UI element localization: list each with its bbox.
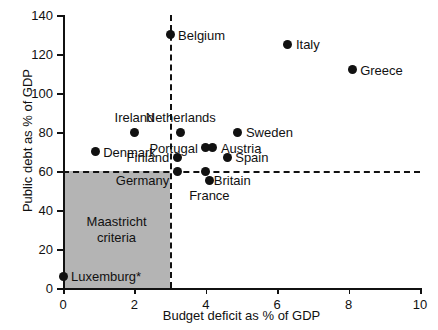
plot-area: 020406080100120140 0246810 Luxemburg*Den… — [63, 15, 420, 288]
data-point — [283, 40, 292, 49]
maastricht-criteria-label: Maastrichtcriteria — [87, 213, 147, 246]
data-point — [166, 30, 175, 39]
x-axis-title: Budget deficit as % of GDP — [63, 308, 420, 323]
data-point — [223, 153, 232, 162]
data-point-label: Britain — [214, 173, 251, 188]
data-point — [205, 176, 214, 185]
data-point-label: Belgium — [178, 27, 225, 42]
y-axis-line — [63, 15, 65, 288]
data-point-label: Italy — [296, 37, 320, 52]
y-tick-label: 0 — [11, 281, 53, 296]
data-point-label: France — [189, 188, 229, 203]
data-point — [208, 143, 217, 152]
data-point — [130, 128, 139, 137]
data-point — [348, 65, 357, 74]
scatter-chart: 020406080100120140 0246810 Luxemburg*Den… — [0, 0, 438, 330]
data-point-label: Netherlands — [146, 110, 216, 125]
y-tick-label: 140 — [11, 8, 53, 23]
data-point-label: Spain — [235, 150, 268, 165]
maastricht-label-line: Maastricht — [87, 213, 147, 229]
data-point-label: Greece — [360, 62, 403, 77]
maastricht-label-line: criteria — [87, 230, 147, 246]
data-point — [91, 147, 100, 156]
data-point — [173, 167, 182, 176]
x-tick — [420, 288, 422, 294]
data-point — [201, 167, 210, 176]
x-axis-line — [63, 288, 420, 290]
y-axis-title: Public debt as % of GDP — [20, 31, 35, 251]
data-point-label: Portugal — [149, 140, 197, 155]
data-point-label: Luxemburg* — [71, 269, 141, 284]
data-point — [233, 128, 242, 137]
data-point-label: Germany — [116, 173, 169, 188]
data-point-label: Sweden — [246, 125, 293, 140]
data-point — [176, 128, 185, 137]
